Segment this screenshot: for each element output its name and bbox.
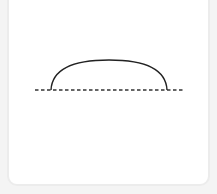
arc-curve (51, 60, 167, 90)
arc-diagram (0, 0, 217, 194)
